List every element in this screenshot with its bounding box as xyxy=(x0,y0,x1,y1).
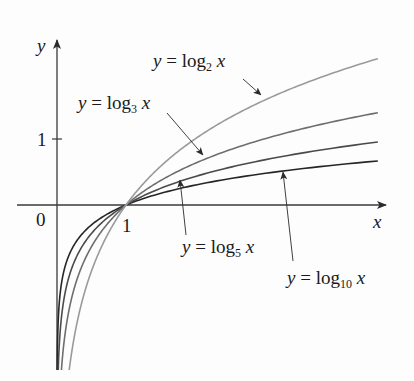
pointer-log3 xyxy=(167,113,203,155)
label-log10: y = log10 x xyxy=(285,267,366,291)
pointer-log2 xyxy=(243,79,261,95)
y-axis-label: y xyxy=(35,35,46,56)
origin-label: 0 xyxy=(36,209,46,230)
log-functions-chart: y x 0 1 1 y = log2 x y = log3 x y = log5… xyxy=(0,0,414,381)
curve-log10 xyxy=(57,161,378,370)
label-log5: y = log5 x xyxy=(180,236,255,260)
label-log2: y = log2 x xyxy=(151,50,226,74)
chart-canvas: y x 0 1 1 y = log2 x y = log3 x y = log5… xyxy=(0,0,414,381)
y-tick-label-1: 1 xyxy=(37,129,47,150)
x-axis-label: x xyxy=(372,211,382,232)
pointer-log10 xyxy=(283,172,293,261)
label-log3: y = log3 x xyxy=(76,92,151,116)
x-tick-label-1: 1 xyxy=(122,215,132,236)
